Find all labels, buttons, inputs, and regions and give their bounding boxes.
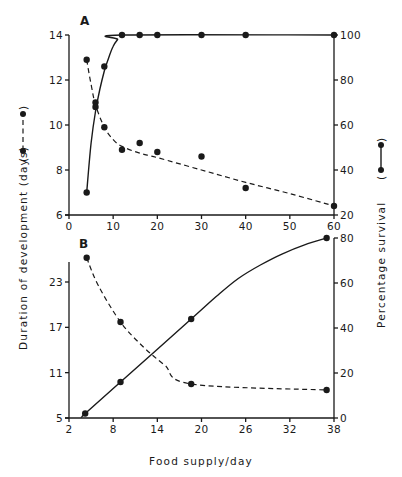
y-left-tick-label: 14 — [49, 29, 63, 41]
y-left-tick-label: 8 — [56, 164, 63, 176]
y-axis-right-title: Percentage survival — [375, 202, 387, 328]
x-tick-label: 0 — [66, 220, 73, 232]
svg-text:): ) — [375, 137, 387, 142]
x-tick-label: 50 — [283, 220, 297, 232]
left-axis-title-group: Duration of development (days) ( ) — [17, 105, 29, 350]
panel-b-series — [81, 235, 329, 417]
x-tick-label: 32 — [283, 423, 297, 435]
data-point — [83, 189, 89, 195]
x-tick-label: 40 — [239, 220, 253, 232]
data-point — [136, 140, 142, 146]
data-point — [198, 153, 204, 159]
panel-a-series — [83, 32, 337, 209]
y-right-tick-label: 0 — [340, 412, 347, 424]
x-tick-label: 14 — [150, 423, 164, 435]
x-tick-label: 20 — [150, 220, 164, 232]
y-axis-left-title: Duration of development (days) — [17, 146, 29, 350]
data-point — [154, 32, 160, 38]
solid-legend-icon: ( ) — [375, 137, 387, 180]
y-left-tick-label: 17 — [49, 321, 63, 333]
solid-series-line — [81, 238, 326, 417]
svg-text:(: ( — [17, 157, 29, 162]
y-left-tick-label: 5 — [56, 412, 63, 424]
panel-a-axes: 01020304050606810121420406080100 — [49, 29, 361, 232]
data-point — [83, 255, 89, 261]
y-right-tick-label: 100 — [340, 29, 361, 41]
panel-b-label: B — [79, 237, 88, 251]
x-tick-label: 26 — [239, 423, 253, 435]
y-right-tick-label: 20 — [340, 209, 354, 221]
data-point — [198, 32, 204, 38]
x-tick-label: 20 — [195, 423, 209, 435]
dashed-series-line — [87, 60, 334, 206]
solid-series-line — [87, 35, 334, 193]
y-right-tick-label: 60 — [340, 119, 354, 131]
x-tick-label: 60 — [327, 220, 341, 232]
data-point — [331, 32, 337, 38]
data-point — [323, 387, 329, 393]
x-tick-label: 10 — [106, 220, 120, 232]
data-point — [119, 147, 125, 153]
data-point — [136, 32, 142, 38]
data-point — [188, 381, 194, 387]
data-point — [101, 124, 107, 130]
y-left-tick-label: 10 — [49, 119, 63, 131]
data-point — [101, 63, 107, 69]
panel-b: B 2814202632385111723020406080 — [49, 232, 354, 435]
y-right-tick-label: 40 — [340, 322, 354, 334]
data-point — [92, 104, 98, 110]
y-left-tick-label: 6 — [56, 209, 63, 221]
y-right-tick-label: 80 — [340, 74, 354, 86]
figure: A 01020304050606810121420406080100 B 281… — [0, 0, 402, 477]
data-point — [117, 379, 123, 385]
data-point — [82, 410, 88, 416]
data-point — [154, 149, 160, 155]
data-point — [119, 32, 125, 38]
y-left-tick-label: 12 — [49, 74, 63, 86]
x-tick-label: 2 — [66, 423, 73, 435]
svg-text:(: ( — [375, 175, 387, 180]
data-point — [242, 32, 248, 38]
data-point — [188, 316, 194, 322]
svg-text:): ) — [17, 105, 29, 110]
data-point — [117, 319, 123, 325]
x-tick-label: 38 — [327, 423, 341, 435]
y-right-tick-label: 80 — [340, 232, 354, 244]
y-right-tick-label: 40 — [340, 164, 354, 176]
data-point — [83, 57, 89, 63]
y-right-tick-label: 60 — [340, 277, 354, 289]
y-left-tick-label: 23 — [49, 276, 63, 288]
data-point — [242, 185, 248, 191]
right-axis-title-group: Percentage survival ( ) — [375, 137, 387, 328]
x-tick-label: 8 — [110, 423, 117, 435]
panel-a-label: A — [80, 14, 90, 28]
data-point — [323, 235, 329, 241]
x-tick-label: 30 — [195, 220, 209, 232]
y-left-tick-label: 11 — [49, 367, 63, 379]
x-axis-title: Food supply/day — [149, 455, 253, 467]
data-point — [331, 203, 337, 209]
y-right-tick-label: 20 — [340, 367, 354, 379]
panel-a: A 01020304050606810121420406080100 — [49, 14, 361, 232]
